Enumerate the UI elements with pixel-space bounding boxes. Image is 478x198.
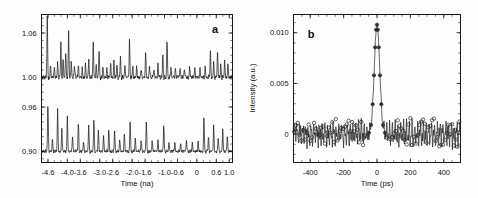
peak-data-point-marker — [375, 23, 378, 26]
panel-a-x-tick-label: -2.6 — [106, 168, 119, 177]
panel-a-x-tick-label: 0.6 — [211, 168, 221, 177]
peak-data-point-marker — [369, 123, 372, 126]
data-point-marker — [347, 119, 350, 122]
data-point-marker — [456, 145, 459, 148]
panel-a-frame — [42, 15, 233, 163]
data-point-marker — [296, 121, 299, 124]
data-point-marker — [312, 121, 315, 124]
peak-data-point-marker — [372, 74, 375, 77]
panel-a-x-tick-label: -0.6 — [171, 168, 184, 177]
panel-b-x-tick-label: -400 — [303, 168, 318, 177]
peak-data-point-marker — [378, 74, 381, 77]
data-point-marker — [331, 121, 334, 124]
panel-a-x-tick-label: -2.0 — [126, 168, 139, 177]
peak-data-point-marker — [373, 46, 376, 49]
data-point-marker — [361, 143, 364, 146]
panel-a: -4.6-4.0-3.6-3.0-2.6-2.0-1.6-1.0-0.600.6… — [0, 0, 239, 198]
peak-data-point-marker — [381, 123, 384, 126]
panel-b-y-tick-label: 0.005 — [270, 79, 289, 88]
panel-b-fit-curve — [294, 25, 461, 150]
panel-b-y-tick-label: 0 — [284, 130, 288, 139]
panel-b-x-tick-label: 200 — [404, 168, 416, 177]
panel-a-x-axis-title: Time (na) — [120, 179, 153, 188]
panel-a-x-tick-label: -3.0 — [93, 168, 106, 177]
panel-a-x-tick-label: 1.0 — [224, 168, 234, 177]
panel-a-y-tick-labels: 1.061.000.960.90 — [22, 29, 36, 156]
peak-data-point-marker — [383, 131, 386, 134]
panel-a-plot: -4.6-4.0-3.6-3.0-2.6-2.0-1.6-1.0-0.600.6… — [0, 0, 239, 198]
panel-a-y-tick-label: 0.90 — [22, 147, 36, 156]
peak-data-point-marker — [376, 28, 379, 31]
panel-b-x-axis-title: Time (ps) — [361, 179, 394, 188]
data-point-marker — [409, 116, 412, 119]
panel-a-x-tick-label: 0 — [195, 168, 199, 177]
panel-a-y-tick-label: 1.00 — [22, 73, 36, 82]
peak-data-point-marker — [380, 103, 383, 106]
peak-data-point-marker — [367, 131, 370, 134]
peak-data-point-marker — [371, 103, 374, 106]
figure-container: -4.6-4.0-3.6-3.0-2.6-2.0-1.6-1.0-0.600.6… — [0, 0, 478, 198]
panel-a-x-tick-label: -1.6 — [139, 168, 152, 177]
panel-a-upper-trace — [42, 16, 233, 80]
panel-a-tick-marks — [42, 15, 233, 163]
panel-b-y-tick-label: 0.010 — [270, 28, 289, 37]
panel-b-x-tick-label: 400 — [438, 168, 450, 177]
panel-b-y-axis-title: Intensity (a.u.) — [248, 63, 257, 113]
panel-a-y-tick-label: 1.06 — [22, 29, 36, 38]
panel-a-x-tick-label: -4.6 — [42, 168, 55, 177]
panel-a-y-tick-label: 0.96 — [22, 103, 36, 112]
panel-b: -400-2000200400 0.0100.0050 b Time (ps) … — [239, 0, 478, 198]
data-point-marker — [351, 120, 354, 123]
data-point-marker — [334, 117, 337, 120]
data-point-marker — [396, 119, 399, 122]
data-point-marker — [405, 143, 408, 146]
panel-b-letter: b — [308, 28, 315, 40]
panel-b-y-tick-labels: 0.0100.0050 — [270, 28, 289, 138]
panel-b-x-tick-labels: -400-2000200400 — [303, 168, 450, 177]
panel-a-x-tick-label: -4.0 — [61, 168, 74, 177]
data-point-marker — [307, 123, 310, 126]
peak-data-point-marker — [377, 46, 380, 49]
panel-b-filled-markers — [367, 23, 386, 135]
panel-b-plot: -400-2000200400 0.0100.0050 b Time (ps) … — [239, 0, 478, 198]
panel-a-lower-trace — [42, 107, 233, 154]
panel-a-letter: a — [212, 23, 219, 35]
panel-a-x-tick-label: -1.0 — [158, 168, 171, 177]
panel-a-x-tick-label: -3.6 — [74, 168, 87, 177]
panel-b-x-tick-label: -200 — [336, 168, 351, 177]
panel-a-x-tick-labels: -4.6-4.0-3.6-3.0-2.6-2.0-1.6-1.0-0.600.6… — [42, 168, 235, 177]
panel-b-x-tick-label: 0 — [375, 168, 379, 177]
